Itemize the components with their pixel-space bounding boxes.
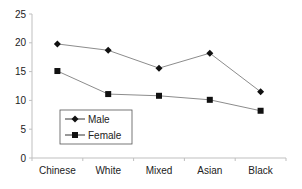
square-marker-icon <box>54 68 60 74</box>
y-tick-label: 0 <box>20 153 26 164</box>
x-tick-label: Mixed <box>146 165 173 176</box>
diamond-marker-icon <box>156 65 163 72</box>
square-marker-icon <box>105 91 111 97</box>
diamond-marker-icon <box>54 40 61 47</box>
series-layer <box>54 40 264 113</box>
y-tick-label: 5 <box>20 124 26 135</box>
y-tick-label: 20 <box>15 37 27 48</box>
square-marker-icon <box>207 97 213 103</box>
legend-label: Female <box>88 130 122 141</box>
y-tick-label: 25 <box>15 9 27 20</box>
series-female <box>54 68 263 114</box>
x-axis: ChineseWhiteMixedAsianBlack <box>32 158 286 176</box>
series-line <box>57 71 260 111</box>
y-tick-label: 15 <box>15 66 27 77</box>
y-axis: 0510152025 <box>15 9 32 164</box>
line-chart: 0510152025 ChineseWhiteMixedAsianBlack M… <box>0 0 302 189</box>
y-tick-label: 10 <box>15 95 27 106</box>
legend-label: Male <box>88 114 110 125</box>
x-tick-label: Asian <box>197 165 222 176</box>
x-tick-label: White <box>95 165 121 176</box>
x-tick-label: Chinese <box>39 165 76 176</box>
series-male <box>54 40 264 95</box>
x-tick-label: Black <box>248 165 273 176</box>
legend: MaleFemale <box>60 110 132 144</box>
square-marker-icon <box>258 108 264 114</box>
square-marker-icon <box>72 132 78 138</box>
diamond-marker-icon <box>105 47 112 54</box>
square-marker-icon <box>156 93 162 99</box>
